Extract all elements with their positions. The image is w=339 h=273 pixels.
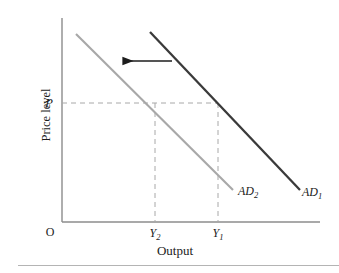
aggregate-demand-figure: Price level Output O P Y2 Y1 AD2 AD1 bbox=[0, 0, 339, 273]
x-tick-label-y1-base: Y bbox=[213, 226, 220, 240]
x-axis-title: Output bbox=[157, 244, 193, 257]
x-tick-label-y1: Y1 bbox=[213, 227, 224, 239]
curve-label-ad2: AD2 bbox=[238, 185, 258, 197]
ad1-curve bbox=[150, 32, 300, 190]
origin-label: O bbox=[46, 226, 55, 238]
x-tick-label-y1-subscript: 1 bbox=[219, 232, 223, 242]
price-level-label: P bbox=[45, 97, 53, 110]
curve-label-ad1-base: AD bbox=[302, 185, 318, 199]
curve-label-ad2-subscript: 2 bbox=[254, 190, 258, 200]
x-tick-label-y2: Y2 bbox=[150, 227, 161, 239]
footer-divider bbox=[18, 265, 339, 266]
curve-label-ad1-subscript: 1 bbox=[318, 191, 322, 201]
x-tick-label-y2-base: Y bbox=[150, 226, 157, 240]
curve-label-ad2-base: AD bbox=[238, 184, 254, 198]
curve-label-ad1: AD1 bbox=[302, 186, 322, 198]
x-tick-label-y2-subscript: 2 bbox=[156, 232, 160, 242]
